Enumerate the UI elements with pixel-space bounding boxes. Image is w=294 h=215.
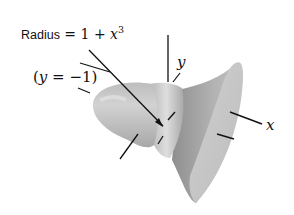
radius-variable: x: [110, 26, 118, 42]
y-leader: [173, 73, 180, 82]
equals-minus-one: = −1): [47, 68, 97, 86]
radius-equals: = 1 +: [60, 26, 110, 42]
surface-of-revolution-diagram: Radius = 1 + x3 (y = −1) y x: [0, 0, 294, 215]
radius-exponent: 3: [118, 24, 124, 35]
x-axis-label: x: [266, 118, 274, 133]
y-equals-minus-one-label: (y = −1): [33, 70, 97, 85]
radius-word: Radius: [21, 28, 60, 42]
radius-label: Radius = 1 + x3: [21, 25, 124, 42]
y-axis-label: y: [177, 55, 185, 70]
bulb-surface: [93, 83, 158, 148]
